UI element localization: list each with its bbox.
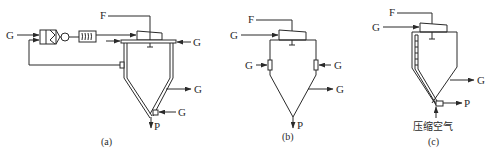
chamber-c	[412, 32, 457, 106]
label-gas-out-a: G	[194, 83, 202, 95]
chamber-b	[268, 40, 318, 117]
bottom-inlet-box-a	[153, 110, 158, 115]
atomizer-b	[279, 30, 306, 40]
label-gas-out-b: G	[336, 83, 344, 95]
label-gas-bottom-a: G	[178, 106, 186, 118]
diagram-canvas: G F	[0, 0, 496, 154]
label-gas-out-c: G	[477, 74, 485, 86]
caption-b: (b)	[282, 131, 294, 143]
label-gas-top-right-a: G	[193, 36, 201, 48]
panel-c: F G G P 压缩空气 (c)	[372, 6, 485, 148]
product-box-c	[436, 101, 443, 106]
label-gas-top-b: G	[230, 29, 238, 41]
label-feed-b: F	[248, 13, 254, 25]
air-jacket-wall	[415, 35, 437, 104]
panel-a: G F	[6, 9, 202, 148]
label-gas-right-b: G	[334, 59, 342, 71]
fan-icon	[60, 33, 79, 41]
label-feed-a: F	[100, 9, 106, 21]
label-gas-top-c: G	[372, 21, 380, 33]
label-feed-c: F	[389, 6, 395, 18]
top-plate-a	[121, 40, 176, 43]
label-product-b: P	[297, 119, 303, 131]
side-inlet-right-b	[314, 60, 318, 70]
heater-coil-icon	[79, 31, 96, 42]
caption-c: (c)	[428, 136, 439, 148]
side-inlet-left-b	[268, 60, 272, 70]
label-gas-inlet-a: G	[6, 29, 14, 41]
label-product-a: P	[154, 120, 160, 132]
caption-a: (a)	[101, 136, 112, 148]
chamber-a	[120, 43, 173, 118]
label-product-c: P	[464, 97, 470, 109]
atomizer-c	[420, 23, 447, 32]
panel-b: F G G G G P (b)	[230, 13, 344, 143]
filter-icon	[40, 30, 60, 44]
label-compressed-air: 压缩空气	[413, 120, 453, 132]
label-gas-left-b: G	[245, 59, 253, 71]
